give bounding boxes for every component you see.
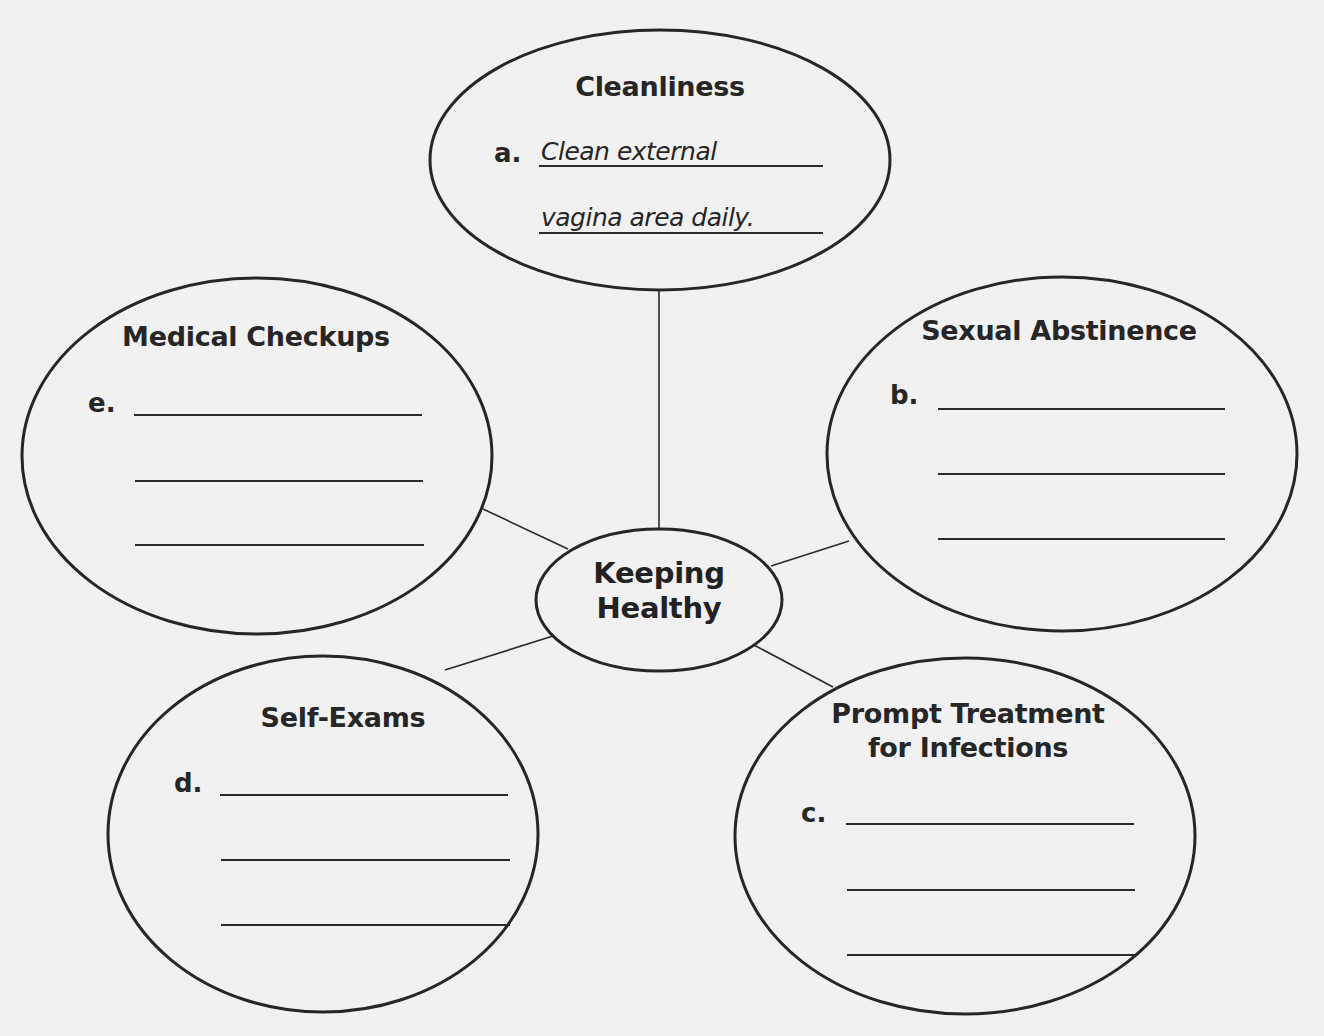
answer-text-a-1[interactable]: Clean external [541, 137, 717, 167]
answer-text-a-2[interactable]: vagina area daily. [541, 203, 754, 233]
self-exams-title: Self-Exams [163, 701, 523, 735]
connector-medical-checkups [483, 509, 568, 549]
item-letter-b: b. [890, 380, 919, 410]
keeping-healthy-title-line2: Healthy [559, 591, 759, 626]
prompt-treatment-title-line2: for Infections [788, 731, 1148, 765]
sexual-abstinence-title: Sexual Abstinence [879, 314, 1239, 348]
worksheet-page: Cleanliness a. Clean external vagina are… [0, 0, 1324, 1036]
keeping-healthy-title-line1: Keeping [559, 556, 759, 591]
item-letter-d: d. [174, 768, 203, 798]
connector-sexual-abstinence [771, 541, 849, 566]
prompt-treatment-title-line1: Prompt Treatment [788, 697, 1148, 731]
item-letter-e: e. [88, 388, 116, 418]
item-letter-c: c. [801, 798, 826, 828]
cleanliness-title: Cleanliness [480, 70, 840, 104]
medical-checkups-title: Medical Checkups [76, 320, 436, 354]
connector-prompt-treatment [754, 645, 833, 687]
item-letter-a: a. [494, 138, 521, 168]
connector-self-exams [445, 636, 553, 670]
